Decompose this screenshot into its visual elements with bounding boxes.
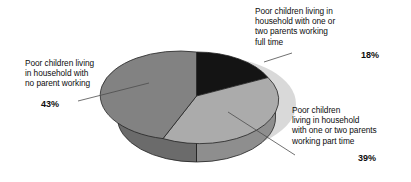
slice-value-no-parent: 43% (41, 99, 59, 109)
slice-label-no-parent: Poor children living in household with n… (25, 58, 145, 89)
slice-label-full-time: Poor children living in household with o… (255, 6, 405, 47)
slice-value-full-time: 18% (361, 50, 379, 60)
leader-line-full-time (264, 53, 292, 62)
slice-value-part-time: 39% (358, 153, 376, 163)
slice-label-part-time: Poor children living in household with o… (292, 105, 410, 146)
pie-chart: Poor children living in household with o… (0, 0, 411, 182)
